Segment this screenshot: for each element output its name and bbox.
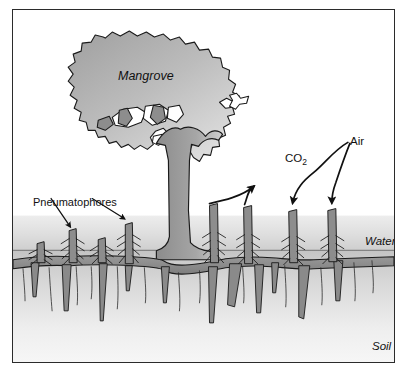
diagram-canvas — [13, 10, 394, 362]
label-pneumatophores: Pneumatophores — [33, 196, 117, 208]
label-soil: Soil — [372, 340, 391, 352]
label-air: Air — [350, 135, 364, 147]
label-mangrove: Mangrove — [118, 69, 174, 83]
mangrove-diagram-figure: Mangrove Pneumatophores CO2 Air Water So… — [0, 0, 408, 380]
label-co2-subscript: 2 — [302, 157, 307, 167]
label-co2-text: CO — [285, 152, 302, 164]
diagram-frame: Mangrove Pneumatophores CO2 Air Water So… — [12, 9, 395, 363]
label-water: Water — [365, 235, 395, 247]
label-co2: CO2 — [285, 152, 307, 164]
